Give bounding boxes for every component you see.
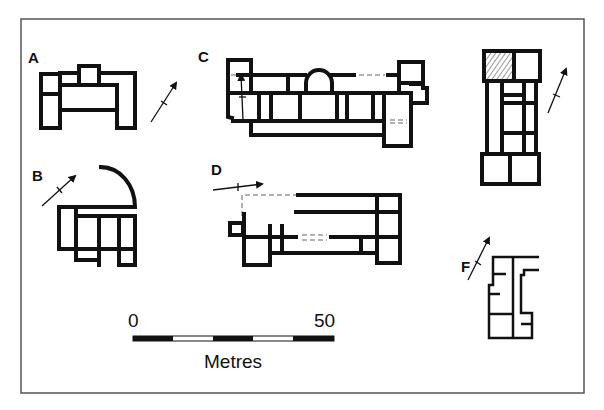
plan-c: C bbox=[198, 48, 427, 146]
plan-c-label: C bbox=[198, 48, 209, 65]
building-plans-figure: A B C bbox=[0, 0, 604, 410]
plan-a-label: A bbox=[28, 49, 39, 66]
plan-f-label: F bbox=[461, 258, 470, 275]
north-arrow-f bbox=[468, 238, 489, 280]
scale-segment bbox=[133, 336, 173, 341]
plan-f: F bbox=[461, 238, 539, 338]
plan-a: A bbox=[28, 49, 176, 128]
north-arrow-e bbox=[548, 69, 566, 113]
scale-segment bbox=[293, 336, 334, 341]
scale-end-label: 50 bbox=[314, 310, 335, 331]
plan-d-label: D bbox=[211, 161, 222, 178]
north-arrow-b bbox=[42, 176, 75, 206]
scale-bar: 0 50 Metres bbox=[128, 310, 335, 372]
plan-b: B bbox=[32, 167, 135, 265]
plan-d: D bbox=[211, 161, 400, 265]
plan-e: E bbox=[482, 45, 566, 184]
scale-start-label: 0 bbox=[128, 310, 139, 331]
plan-b-label: B bbox=[32, 167, 43, 184]
scale-unit-label: Metres bbox=[204, 351, 262, 372]
scale-segment bbox=[213, 336, 253, 341]
